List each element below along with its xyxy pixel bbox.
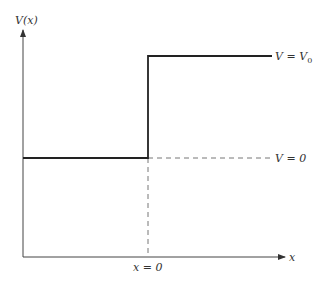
potential-step-line xyxy=(23,56,272,158)
step-potential-diagram: V(x) x x = 0 V = V0 V = 0 xyxy=(0,0,321,284)
step-location-label: x = 0 xyxy=(133,261,162,274)
y-axis-label: V(x) xyxy=(15,14,38,27)
high-level-label: V = V0 xyxy=(275,50,312,65)
x-axis-label: x xyxy=(289,251,296,264)
low-level-label: V = 0 xyxy=(275,152,306,165)
